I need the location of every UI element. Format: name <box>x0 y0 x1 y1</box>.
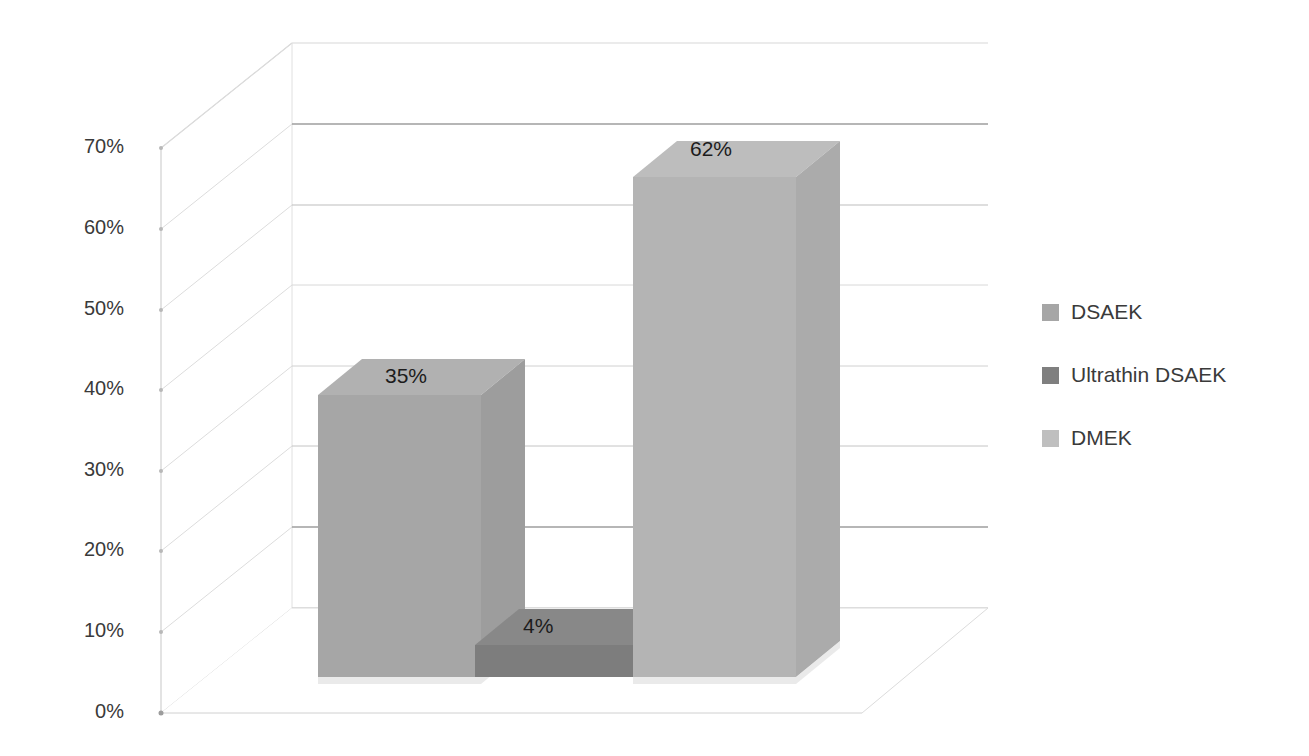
bar-label-ultrathin-dsaek: 4% <box>523 614 553 637</box>
tick-mark <box>159 711 164 716</box>
bar-dmek-side-face <box>796 141 840 677</box>
gridline-slant-50 <box>161 205 292 310</box>
chart-container: 70% 60% 50% 40% 30% 20% 10% 0% <box>0 0 1309 756</box>
gridline-slant-40 <box>161 285 292 390</box>
bar-chart-3d: 70% 60% 50% 40% 30% 20% 10% 0% <box>0 0 1309 756</box>
tick-mark <box>159 388 163 392</box>
y-tick-label-30: 30% <box>84 458 124 480</box>
tick-mark <box>159 146 163 150</box>
tick-mark <box>159 227 163 231</box>
legend-item-ultrathin-dsaek[interactable]: Ultrathin DSAEK <box>1042 363 1226 386</box>
gridline-slant-30 <box>161 366 292 471</box>
y-tick-label-0: 0% <box>95 700 124 722</box>
gridline-slant-20 <box>161 446 292 551</box>
gridline-70 <box>161 43 292 148</box>
legend: DSAEK Ultrathin DSAEK DMEK <box>1042 300 1226 449</box>
legend-label-dmek: DMEK <box>1071 426 1132 449</box>
tick-mark <box>159 308 163 312</box>
tick-mark <box>159 469 163 473</box>
y-axis-tick-labels: 70% 60% 50% 40% 30% 20% 10% 0% <box>84 135 124 722</box>
bar-label-dmek: 62% <box>690 137 732 160</box>
legend-swatch-dmek <box>1042 430 1059 447</box>
y-tick-label-50: 50% <box>84 297 124 319</box>
bar-dmek-front-face <box>633 177 796 677</box>
gridline-slant-60 <box>161 124 292 229</box>
gridline-slant-10 <box>161 527 292 632</box>
y-tick-label-70: 70% <box>84 135 124 157</box>
legend-swatch-dsaek <box>1042 304 1059 321</box>
legend-swatch-ultrathin-dsaek <box>1042 367 1059 384</box>
legend-item-dmek[interactable]: DMEK <box>1042 426 1132 449</box>
legend-label-ultrathin-dsaek: Ultrathin DSAEK <box>1071 363 1226 386</box>
legend-label-dsaek: DSAEK <box>1071 300 1142 323</box>
y-tick-label-20: 20% <box>84 538 124 560</box>
y-tick-label-40: 40% <box>84 377 124 399</box>
bar-dmek[interactable] <box>633 141 840 684</box>
bar-label-dsaek: 35% <box>385 364 427 387</box>
bar-ultrathin-front-face <box>475 645 633 677</box>
tick-mark <box>159 630 163 634</box>
bar-dsaek-front-face <box>318 395 481 677</box>
y-tick-label-60: 60% <box>84 216 124 238</box>
tick-mark <box>159 549 163 553</box>
legend-item-dsaek[interactable]: DSAEK <box>1042 300 1142 323</box>
y-tick-label-10: 10% <box>84 619 124 641</box>
